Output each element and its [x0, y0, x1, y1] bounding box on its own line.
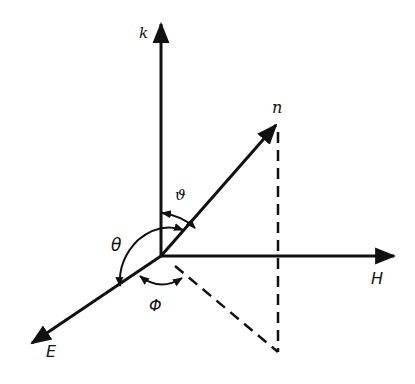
- e-axis: [32, 256, 161, 343]
- diagram-canvas: k n H E ϑ θ Φ: [0, 0, 415, 384]
- n-vector-label: n: [272, 98, 282, 117]
- phi-arc: [140, 276, 182, 285]
- phi-label: Φ: [149, 296, 162, 315]
- e-axis-label: E: [46, 342, 57, 361]
- big-theta-label: θ: [111, 235, 122, 255]
- h-axis-label: H: [371, 269, 383, 288]
- projection-base-dashed: [175, 266, 278, 352]
- k-axis-label: k: [139, 24, 148, 42]
- small-theta-label: ϑ: [175, 186, 186, 204]
- small-theta-arc: [162, 213, 195, 228]
